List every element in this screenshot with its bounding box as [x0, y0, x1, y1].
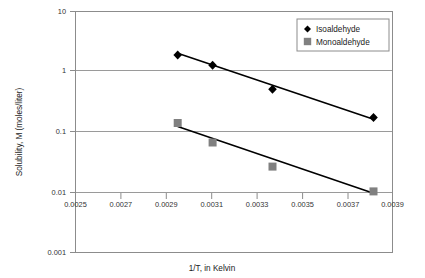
x-tick-label-4: 0.0033 [246, 200, 269, 209]
legend-label-monoaldehyde: Monoaldehyde [316, 38, 370, 47]
data-point-monoaldehyde-3 [370, 187, 378, 195]
y-axis-ticks [70, 12, 75, 253]
x-tick-label-0: 0.0025 [64, 200, 87, 209]
x-tick-label-1: 0.0027 [110, 200, 133, 209]
x-tick-label-5: 0.0035 [291, 200, 314, 209]
y-tick-label-0.01: 0.01 [52, 188, 66, 197]
y-axis-title: Solubility, M (moles/liter) [15, 87, 24, 176]
y-tick-label-0.1: 0.1 [56, 127, 66, 136]
data-point-monoaldehyde-2 [269, 163, 277, 171]
data-point-monoaldehyde-1 [209, 139, 217, 147]
chart-canvas: 10 1 0.1 0.01 0.001 0.0025 0.0027 0.0029… [0, 0, 425, 278]
y-tick-label-1: 1 [62, 66, 66, 75]
legend-marker-square-icon [304, 38, 311, 45]
y-tick-label-0.001: 0.001 [48, 248, 67, 257]
x-axis-title: 1/T, in Kelvin [189, 264, 236, 273]
legend-label-isoaldehyde: Isoaldehyde [316, 25, 361, 34]
y-tick-label-10: 10 [58, 7, 66, 16]
x-tick-label-7: 0.0039 [381, 200, 404, 209]
legend: Isoaldehyde Monoaldehyde [297, 19, 389, 51]
x-tick-label-6: 0.0037 [337, 200, 360, 209]
x-tick-label-3: 0.0031 [200, 200, 223, 209]
data-point-monoaldehyde-0 [174, 119, 182, 127]
x-tick-label-2: 0.0029 [155, 200, 178, 209]
chart-figure: 10 1 0.1 0.01 0.001 0.0025 0.0027 0.0029… [0, 0, 425, 278]
